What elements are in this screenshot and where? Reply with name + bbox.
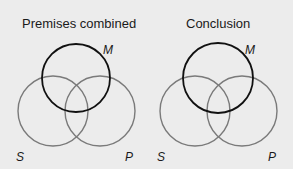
- premises-label-s: S: [16, 150, 24, 164]
- premises-circle-s: [18, 76, 88, 146]
- premises-label-p: P: [125, 150, 133, 164]
- conclusion-circle-p: [207, 76, 277, 146]
- premises-circle-m: [42, 44, 110, 112]
- conclusion-label-m: M: [245, 43, 255, 57]
- conclusion-circle-s: [160, 76, 230, 146]
- diagram-panel: Premises combined Conclusion M S P M S P: [0, 0, 293, 169]
- venn-diagrams-svg: M S P M S P: [0, 0, 293, 169]
- premises-venn-diagram: M S P: [16, 43, 135, 164]
- conclusion-venn-diagram: M S P: [157, 43, 277, 164]
- premises-circle-p: [65, 76, 135, 146]
- conclusion-circle-m: [183, 43, 253, 113]
- premises-label-m: M: [103, 43, 113, 57]
- conclusion-label-s: S: [157, 150, 165, 164]
- conclusion-label-p: P: [268, 150, 276, 164]
